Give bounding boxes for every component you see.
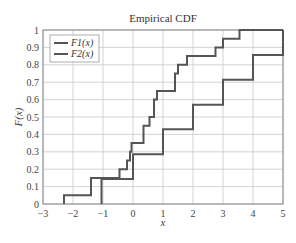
x-tick-label: 4 (251, 208, 256, 219)
y-tick-label: 0.4 (27, 129, 40, 140)
y-axis-ticks: 00.10.20.30.40.50.60.70.80.91 (27, 25, 40, 210)
y-tick-label: 1 (34, 25, 39, 36)
x-tick-label: 2 (191, 208, 196, 219)
y-tick-label: 0.5 (27, 112, 40, 123)
x-tick-label: −2 (68, 208, 79, 219)
y-tick-label: 0.2 (27, 164, 40, 175)
y-tick-label: 0.1 (27, 181, 40, 192)
y-tick-label: 0.8 (27, 59, 40, 70)
ecdf-chart: Empirical CDF −3−2−1012345 00.10.20.30.4… (0, 0, 296, 243)
x-tick-label: 3 (221, 208, 226, 219)
y-axis-label: F(x) (12, 107, 25, 127)
legend: F1(x) F2(x) (50, 35, 99, 62)
x-tick-label: 0 (131, 208, 136, 219)
y-tick-label: 0.6 (27, 94, 40, 105)
y-tick-label: 0.3 (27, 146, 40, 157)
x-tick-label: 5 (281, 208, 286, 219)
x-axis-label: x (160, 216, 166, 228)
y-tick-label: 0.7 (27, 77, 40, 88)
y-tick-label: 0.9 (27, 42, 40, 53)
x-tick-label: −3 (38, 208, 49, 219)
legend-label-f2: F2(x) (70, 48, 94, 60)
chart-title: Empirical CDF (129, 12, 197, 24)
y-tick-label: 0 (34, 199, 39, 210)
x-tick-label: −1 (98, 208, 109, 219)
